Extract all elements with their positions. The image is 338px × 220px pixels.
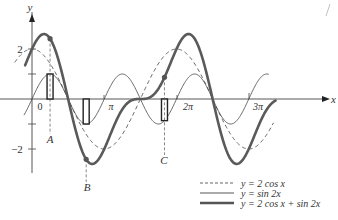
point-label-a: A <box>46 133 54 145</box>
x-tick-label-2pi: 2π <box>183 101 194 112</box>
x-tick-label-3pi: 3π <box>252 101 264 112</box>
y-axis-label: y <box>27 1 33 13</box>
y-axis-arrow-icon <box>29 14 35 22</box>
y-tick-label-neg2: −2 <box>11 143 23 155</box>
legend: y = 2 cos x y = sin 2x y = 2 cos x + sin… <box>200 178 321 209</box>
sum-point-dot <box>162 75 167 80</box>
origin-label: 0 <box>38 101 43 112</box>
point-label-c: C <box>160 154 168 166</box>
point-label-b: B <box>84 181 91 193</box>
x-tick-label-pi: π <box>108 101 114 112</box>
ordinate-bar <box>83 99 89 124</box>
sum-point-dot <box>47 36 52 41</box>
sum-point-dot <box>84 157 89 162</box>
ordinate-markers <box>47 36 167 182</box>
legend-label-sum: y = 2 cos x + sin 2x <box>240 198 321 209</box>
x-axis-label: x <box>330 93 336 105</box>
x-axis-arrow-icon <box>322 96 330 102</box>
chart-plot: x y 2 −2 0 π 2π 3π A B C y = 2 cos x y =… <box>0 0 338 220</box>
y-tick-label-2: 2 <box>17 43 23 55</box>
stray-mark <box>326 4 330 16</box>
